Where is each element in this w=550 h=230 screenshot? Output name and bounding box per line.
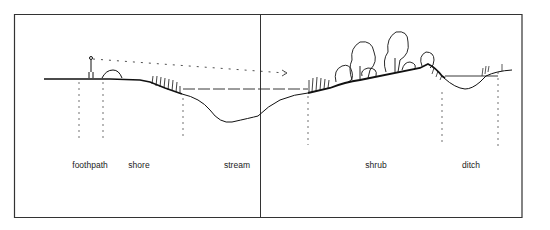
- person-icon: [89, 57, 93, 79]
- ground-left: [44, 79, 182, 94]
- zone-label-shrub: shrub: [365, 160, 386, 170]
- ditch-reeds-icon: [482, 64, 502, 76]
- shrub-hill-ground: [308, 64, 445, 93]
- zone-label-stream: stream: [224, 160, 250, 170]
- cross-section-drawing: [0, 0, 550, 230]
- frame-left-part: [15, 15, 261, 218]
- sight-line: [93, 59, 285, 73]
- stream-bed: [182, 93, 308, 122]
- reeds-left-icon: [152, 76, 180, 93]
- zone-dividers: [79, 72, 498, 146]
- diagram-frame: [15, 15, 523, 218]
- bush-icon: [102, 70, 122, 78]
- zone-label-ditch: ditch: [462, 160, 480, 170]
- zone-label-foothpath: foothpath: [72, 160, 107, 170]
- zone-label-shore: shore: [128, 160, 149, 170]
- ditch-bed: [444, 70, 512, 89]
